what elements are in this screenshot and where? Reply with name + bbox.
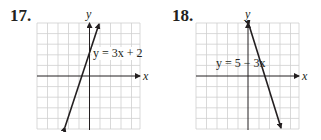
y-axis-label-17: y xyxy=(85,7,92,21)
x-axis-label-18: x xyxy=(301,69,308,83)
equation-label-17: y = 3x + 2 xyxy=(93,46,143,60)
graph-18: x y y = 5 − 3x xyxy=(196,7,308,130)
x-axis-label-17: x xyxy=(142,69,149,83)
equation-label-18: y = 5 − 3x xyxy=(216,56,266,70)
graph-17: x y y = 3x + 2 xyxy=(37,7,149,130)
y-axis-label-18: y xyxy=(244,7,251,21)
graphs: x y y = 3x + 2 x y y = 5 − 3x xyxy=(0,0,321,140)
